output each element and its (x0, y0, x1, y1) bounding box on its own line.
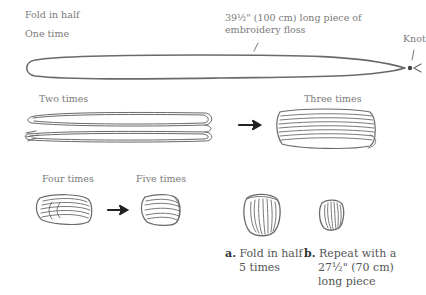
caption-b: b. Repeat with a 27½" (70 cm) long piece (304, 247, 396, 288)
one-time-floss-loop (27, 43, 414, 79)
arrow-right-icon (239, 121, 260, 129)
five-times-floss (141, 195, 180, 226)
caption-b-line2: 27½" (70 cm) (304, 261, 394, 274)
caption-a-letter: a. (225, 247, 236, 260)
knot-icon (408, 64, 421, 72)
caption-a-line2: 5 times (225, 261, 280, 274)
folded-bundle-b (320, 200, 344, 230)
two-times-floss (25, 112, 212, 142)
caption-b-letter: b. (304, 247, 316, 260)
three-times-floss (277, 109, 376, 148)
caption-b-line1: Repeat with a (319, 247, 396, 260)
caption-b-line3: long piece (304, 275, 376, 288)
caption-a-line1: Fold in half (239, 247, 302, 260)
arrow-right-icon (108, 206, 127, 214)
folded-bundle-a (244, 194, 280, 235)
caption-a: a. Fold in half 5 times (225, 247, 303, 275)
four-times-floss (36, 195, 91, 225)
